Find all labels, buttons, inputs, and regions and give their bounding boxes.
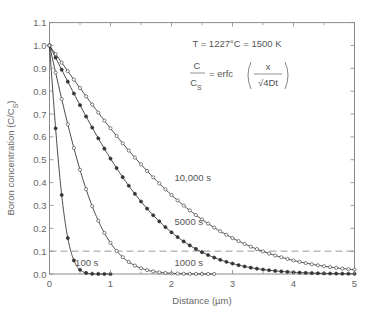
data-point bbox=[182, 204, 185, 207]
data-point bbox=[225, 260, 228, 263]
data-point bbox=[255, 247, 258, 250]
y-tick-label: 0.4 bbox=[33, 177, 46, 188]
data-point bbox=[60, 193, 63, 196]
x-tick-label: 5 bbox=[352, 278, 357, 289]
data-point bbox=[268, 252, 271, 255]
data-point bbox=[72, 78, 75, 81]
data-point bbox=[255, 267, 258, 270]
data-point bbox=[78, 268, 81, 271]
data-point bbox=[237, 240, 240, 243]
data-point bbox=[54, 56, 57, 59]
erfc-equation: C CS = erfc x √4Dt bbox=[190, 60, 288, 91]
data-point bbox=[139, 200, 142, 203]
series-5000s bbox=[48, 44, 356, 276]
data-point bbox=[322, 265, 325, 268]
data-point bbox=[109, 241, 112, 244]
data-point bbox=[176, 235, 179, 238]
data-point bbox=[219, 258, 222, 261]
data-point bbox=[133, 156, 136, 159]
y-tick-label: 0.3 bbox=[33, 200, 46, 211]
x-tick-label: 3 bbox=[230, 278, 235, 289]
data-point bbox=[280, 270, 283, 273]
data-point bbox=[115, 249, 118, 252]
data-point bbox=[274, 254, 277, 257]
data-point bbox=[121, 256, 124, 259]
data-point bbox=[103, 119, 106, 122]
x-tick-label: 1 bbox=[108, 278, 113, 289]
data-point bbox=[207, 272, 210, 275]
data-point bbox=[231, 262, 234, 265]
data-point bbox=[188, 244, 191, 247]
svg-text:x: x bbox=[266, 61, 271, 72]
data-point bbox=[164, 188, 167, 191]
data-point bbox=[164, 225, 167, 228]
data-point bbox=[60, 68, 63, 71]
data-point bbox=[298, 260, 301, 263]
data-point bbox=[194, 247, 197, 250]
data-point bbox=[152, 270, 155, 273]
data-point bbox=[213, 226, 216, 229]
data-point bbox=[164, 271, 167, 274]
data-point bbox=[170, 231, 173, 234]
svg-text:√4Dt: √4Dt bbox=[258, 77, 278, 88]
series-layer bbox=[48, 44, 356, 276]
data-point bbox=[158, 182, 161, 185]
series-100s bbox=[48, 44, 112, 276]
data-point bbox=[115, 167, 118, 170]
data-point bbox=[347, 272, 350, 275]
plot-frame bbox=[50, 23, 355, 274]
data-point bbox=[213, 272, 216, 275]
data-point bbox=[237, 264, 240, 267]
data-point bbox=[85, 188, 88, 191]
data-point bbox=[66, 123, 69, 126]
x-axis-ticks: 012345 bbox=[47, 23, 357, 289]
data-point bbox=[268, 269, 271, 272]
data-point bbox=[85, 115, 88, 118]
svg-text:= erfc: = erfc bbox=[209, 68, 233, 79]
data-point bbox=[109, 157, 112, 160]
data-point bbox=[54, 127, 57, 130]
svg-text:C: C bbox=[194, 60, 201, 71]
data-point bbox=[54, 52, 57, 55]
data-point bbox=[78, 86, 81, 89]
series-label: 10,000 s bbox=[175, 172, 212, 183]
data-point bbox=[66, 70, 69, 73]
x-tick-label: 0 bbox=[47, 278, 52, 289]
data-point bbox=[127, 260, 130, 263]
data-point bbox=[91, 272, 94, 275]
data-point bbox=[146, 169, 149, 172]
data-point bbox=[341, 272, 344, 275]
y-axis-title: Boron concentration (C/CS) bbox=[5, 100, 19, 215]
data-point bbox=[139, 267, 142, 270]
data-point bbox=[249, 245, 252, 248]
data-point bbox=[97, 137, 100, 140]
data-point bbox=[127, 149, 130, 152]
series-label: 5000 s bbox=[175, 216, 204, 227]
y-tick-label: 1.0 bbox=[33, 40, 46, 51]
data-point bbox=[249, 266, 252, 269]
data-point bbox=[66, 80, 69, 83]
data-point bbox=[310, 263, 313, 266]
data-point bbox=[231, 236, 234, 239]
data-point bbox=[243, 265, 246, 268]
x-tick-label: 2 bbox=[169, 278, 174, 289]
data-point bbox=[213, 256, 216, 259]
data-point bbox=[194, 272, 197, 275]
y-tick-label: 0.1 bbox=[33, 246, 46, 257]
data-point bbox=[280, 256, 283, 259]
data-point bbox=[316, 272, 319, 275]
data-point bbox=[335, 266, 338, 269]
data-point bbox=[146, 268, 149, 271]
data-point bbox=[97, 272, 100, 275]
data-point bbox=[207, 222, 210, 225]
data-point bbox=[158, 220, 161, 223]
data-point bbox=[225, 233, 228, 236]
data-point bbox=[121, 142, 124, 145]
data-point bbox=[60, 97, 63, 100]
data-point bbox=[146, 207, 149, 210]
data-point bbox=[115, 134, 118, 137]
data-point bbox=[292, 259, 295, 262]
data-point bbox=[66, 236, 69, 239]
data-point bbox=[341, 267, 344, 270]
data-point bbox=[158, 271, 161, 274]
